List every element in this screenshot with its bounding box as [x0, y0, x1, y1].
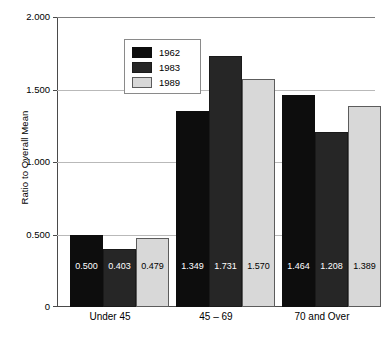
y-tick-mark-0500: [53, 235, 57, 236]
y-tick-label-0: 0: [4, 302, 50, 312]
x-tick-label-70-and-over: 70 and Over: [269, 312, 375, 322]
legend-row-1983[interactable]: 1983: [132, 61, 180, 74]
bar-under45-1962[interactable]: [70, 235, 103, 308]
y-tick-mark-0: [53, 306, 57, 307]
bar-45-69-1983[interactable]: [209, 56, 242, 307]
legend-label-1989: 1989: [159, 78, 180, 88]
legend-swatch-1989-icon: [132, 77, 152, 88]
bar-under45-1983[interactable]: [103, 249, 136, 307]
bar-70-over-1989[interactable]: [348, 106, 381, 307]
legend-label-1962: 1962: [159, 48, 180, 58]
y-tick-label-1500: 1.500: [4, 85, 50, 95]
y-tick-mark-2000: [53, 17, 57, 18]
x-tick-label-under-45: Under 45: [57, 312, 163, 322]
bar-45-69-1989[interactable]: [242, 79, 275, 307]
legend-row-1962[interactable]: 1962: [132, 46, 180, 59]
plot-area: 0.500 0.403 0.479 1.349 1.731 1.570 1.46…: [57, 17, 375, 307]
bar-70-over-1962[interactable]: [282, 95, 315, 307]
y-tick-label-0500: 0.500: [4, 230, 50, 240]
legend-swatch-1983-icon: [132, 62, 152, 73]
y-tick-mark-1000: [53, 162, 57, 163]
gridline-2000: [57, 17, 375, 18]
x-tick-label-45-69: 45 – 69: [163, 312, 269, 322]
y-tick-label-2000: 2.000: [4, 12, 50, 22]
legend-swatch-1962-icon: [132, 47, 152, 58]
bar-45-69-1962[interactable]: [176, 111, 209, 307]
bar-70-over-1983[interactable]: [315, 132, 348, 307]
bar-chart-figure: Ratio to Overall Mean 2.000 1.500 1.000 …: [0, 0, 387, 338]
y-tick-label-1000: 1.000: [4, 157, 50, 167]
y-tick-mark-1500: [53, 90, 57, 91]
legend-label-1983: 1983: [159, 63, 180, 73]
bar-under45-1989[interactable]: [136, 238, 169, 308]
legend-row-1989[interactable]: 1989: [132, 76, 180, 89]
legend: 1962 1983 1989: [124, 39, 201, 94]
